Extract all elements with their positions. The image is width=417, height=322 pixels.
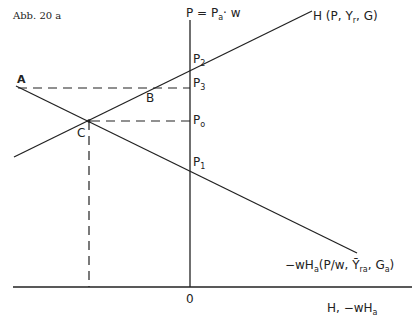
p2-label: P2 bbox=[193, 52, 205, 68]
figure-caption: Abb. 20 a bbox=[12, 10, 61, 21]
p1-label: P1 bbox=[193, 155, 205, 171]
h-curve bbox=[14, 11, 312, 157]
origin-label: 0 bbox=[186, 292, 194, 306]
p0-label: Po bbox=[193, 113, 205, 129]
diagram: Abb. 20 a P = Pa· w H (P, Yr, G) −wHa(P/… bbox=[0, 0, 417, 322]
p3-label: P3 bbox=[193, 76, 205, 92]
point-c-label: C bbox=[77, 126, 85, 140]
wha-curve-label: −wHa(P/w, Ȳra, Ga) bbox=[285, 258, 394, 274]
vertical-axis-label: P = Pa· w bbox=[186, 6, 241, 22]
wha-curve bbox=[16, 86, 357, 253]
point-b-label: B bbox=[146, 91, 154, 105]
svg-text:H, −wHa: H, −wHa bbox=[327, 301, 378, 317]
horizontal-axis-label: H, −wHa bbox=[327, 301, 378, 317]
svg-text:−wHa(P/w, Ȳra, Ga): −wHa(P/w, Ȳra, Ga) bbox=[285, 258, 394, 274]
svg-text:H (P, Yr, G): H (P, Yr, G) bbox=[313, 9, 378, 25]
svg-text:P = Pa· w: P = Pa· w bbox=[186, 6, 241, 22]
h-curve-label: H (P, Yr, G) bbox=[313, 9, 378, 25]
point-c-marker bbox=[87, 119, 91, 123]
point-a-label: A bbox=[17, 73, 26, 86]
